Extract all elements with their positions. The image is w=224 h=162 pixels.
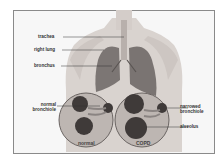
label-right-lung: right lung: [34, 47, 55, 52]
caption-copd: COPD: [136, 140, 150, 146]
lungs-illustration: [0, 0, 224, 162]
label-bronchus: bronchus: [34, 63, 55, 68]
trachea: [121, 20, 127, 60]
label-normal-bronchiole: normal bronchiole: [32, 102, 56, 112]
label-trachea: trachea: [38, 34, 54, 39]
normal-circle: [59, 93, 113, 147]
copd-circle: [115, 93, 169, 147]
label-alveolus: alveolus: [180, 124, 198, 129]
label-narrowed-bronchiole: narrowed bronchiole: [180, 104, 203, 114]
caption-normal: normal: [78, 140, 95, 146]
